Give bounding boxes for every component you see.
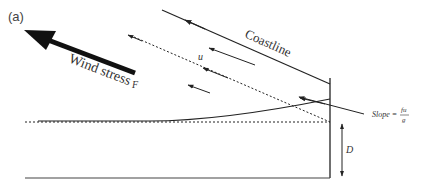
current-arrow-3 [188,85,210,93]
coastline-label: Coastline [243,26,294,60]
slope-label: Slope = fu g [372,106,409,124]
ekman-coastal-diagram: (a) Wind stress F Coastline u Slope = fu… [0,0,430,193]
svg-text:Slope =: Slope = [372,110,397,119]
sea-surface-curve [38,99,330,121]
coastline-arrow-head [185,20,205,29]
surface-flow-arrow [128,35,142,41]
slope-numerator: fu [401,106,407,114]
current-arrow-1 [209,48,255,65]
velocity-label: u [198,51,203,62]
current-arrow-2 [203,68,228,78]
wind-stress-label: Wind stress [67,51,133,88]
depth-label: D [345,144,354,155]
force-label: F [131,79,139,90]
slope-pointer-arrow [299,97,364,114]
surface-flow-dotted-line [134,37,330,122]
panel-label: (a) [8,9,24,24]
slope-denominator: g [402,116,406,124]
